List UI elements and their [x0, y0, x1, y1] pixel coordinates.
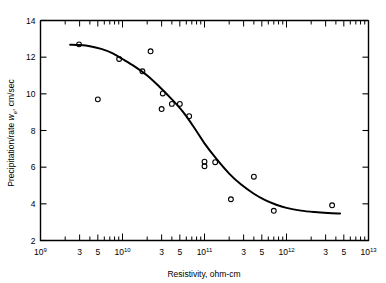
y-tick-label: 6 [31, 162, 36, 172]
x-tick-label-minor: 5 [259, 247, 264, 257]
resistivity-precipitation-scatter-plot: 109351010351011351012351013 2468101214 R… [0, 0, 386, 283]
x-tick-label-minor: 5 [95, 247, 100, 257]
y-tick-label: 14 [26, 16, 36, 26]
x-tick-label-minor: 5 [341, 247, 346, 257]
x-tick-label-minor: 3 [241, 247, 246, 257]
y-tick-label: 2 [31, 236, 36, 246]
x-tick-label-minor: 3 [323, 247, 328, 257]
y-tick-label: 4 [31, 199, 36, 209]
x-tick-label-minor: 5 [177, 247, 182, 257]
x-tick-label-minor: 3 [77, 247, 82, 257]
y-axis-title-prefix: Precipitation/rate [6, 120, 16, 186]
y-tick-label: 12 [26, 52, 36, 62]
chart-figure: 109351010351011351012351013 2468101214 R… [0, 0, 386, 283]
y-axis-title-suffix: , cm/sec [6, 79, 16, 111]
y-tick-label: 10 [26, 89, 36, 99]
y-tick-label: 8 [31, 126, 36, 136]
x-axis-title: Resistivity, ohm-cm [167, 269, 240, 279]
x-tick-label-minor: 3 [159, 247, 164, 257]
